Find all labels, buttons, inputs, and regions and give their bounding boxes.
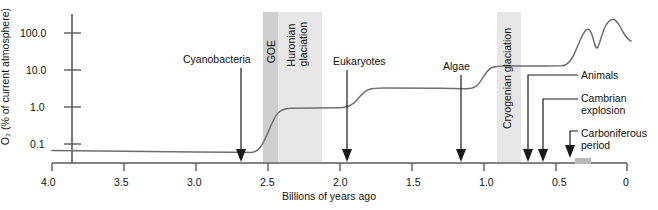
annotation-leader-carboniferous-period: [565, 131, 578, 158]
band-label-huronian-glaciation: Huronian glaciation: [286, 22, 309, 66]
oxygen-curve: [52, 19, 631, 152]
annotation-arrow-eukaryotes: [342, 70, 352, 162]
annotation-label-animals: Animals: [581, 70, 618, 82]
oxygen-history-chart: O₂ (% of current atmosphere) 100.0 10.0 …: [0, 0, 658, 210]
x-tick-label-40: 4.0: [41, 176, 56, 188]
x-tick-label-20: 2.0: [333, 176, 348, 188]
x-tick-label-05: 0.5: [552, 176, 567, 188]
x-tick-label-30: 3.0: [187, 176, 202, 188]
x-tick-label-25: 2.5: [260, 176, 275, 188]
x-axis: [52, 158, 627, 171]
y-tick-label-1: 1.0: [30, 101, 45, 113]
y-tick-label-01: 0.1: [30, 138, 45, 150]
annotation-label-cyanobacteria: Cyanobacteria: [183, 54, 251, 66]
carboniferous-axis-marker: [575, 158, 591, 164]
y-axis: [64, 14, 81, 163]
y-axis-title: O₂ (% of current atmosphere): [0, 8, 15, 145]
x-tick-label-0: 0: [623, 176, 629, 188]
band-label-goe: GOE: [266, 40, 278, 63]
annotation-label-cambrian-explosion: Cambrian explosion: [581, 93, 627, 116]
band-label-cryogenian-glaciation: Cryogenian glaciation: [502, 28, 514, 129]
annotation-label-algae: Algae: [443, 61, 470, 73]
x-tick-label-15: 1.5: [406, 176, 421, 188]
x-tick-label-35: 3.5: [114, 176, 129, 188]
x-axis-title: Billions of years ago: [0, 190, 658, 202]
annotation-label-eukaryotes: Eukaryotes: [333, 56, 386, 68]
annotation-arrow-cyanobacteria: [236, 68, 246, 162]
y-tick-label-100: 100.0: [20, 27, 46, 39]
y-tick-label-10: 10.0: [26, 64, 46, 76]
x-tick-label-10: 1.0: [479, 176, 494, 188]
annotation-label-carboniferous-period: Carboniferous period: [581, 128, 647, 151]
